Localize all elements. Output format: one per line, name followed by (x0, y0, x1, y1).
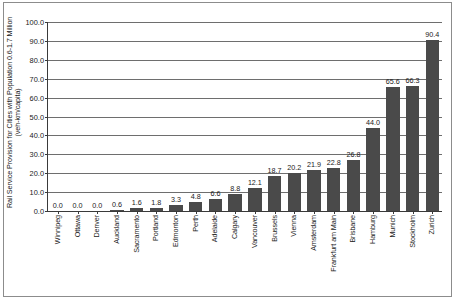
x-axis-label-slot: Denver (86, 215, 106, 303)
bar-slot: 0.0 (48, 22, 68, 211)
x-axis-tick-mark (393, 211, 394, 214)
x-axis-category-label: Brussels (269, 215, 278, 242)
bar-slot: 18.7 (265, 22, 285, 211)
bar-slot: 22.8 (324, 22, 344, 211)
bar[interactable]: 1.8 (150, 208, 163, 211)
bar-value-label: 12.1 (248, 178, 262, 187)
x-axis-tick-mark (156, 211, 157, 214)
x-axis-category-label: Calgary (230, 215, 239, 239)
bar-value-label: 0.0 (73, 201, 83, 210)
x-axis-category-label: Denver (92, 215, 101, 238)
y-axis-tick-label: 30.0 (30, 150, 44, 159)
x-axis-label-slot: Brussels (264, 215, 284, 303)
bar-slot: 66.3 (403, 22, 423, 211)
x-axis-category-label: Portland (151, 215, 160, 241)
y-axis-tick-label: 70.0 (30, 74, 44, 83)
x-axis-tick-mark (176, 211, 177, 214)
bar[interactable]: 18.7 (268, 176, 281, 211)
bar-value-label: 4.8 (191, 192, 201, 201)
bar-slot: 65.6 (383, 22, 403, 211)
bar[interactable]: 8.8 (228, 194, 241, 211)
bar-value-label: 90.4 (425, 30, 439, 39)
bar-slot: 21.9 (304, 22, 324, 211)
bar[interactable]: 4.8 (189, 202, 202, 211)
x-axis-category-label: Amsterdam (308, 215, 317, 251)
x-axis-label-slot: Vancouver (244, 215, 264, 303)
bar[interactable]: 44.0 (366, 128, 379, 211)
x-axis-label-slot: Brisbane (343, 215, 363, 303)
x-axis-category-label: Ottawa (72, 215, 81, 237)
x-axis-label-slot: Stockholm (402, 215, 422, 303)
x-axis-tick-mark (117, 211, 118, 214)
bar[interactable]: 3.3 (169, 205, 182, 211)
x-axis-label-slot: Zurich (421, 215, 441, 303)
bar-value-label: 65.6 (386, 77, 400, 86)
x-axis-category-label: Auckland (111, 215, 120, 244)
x-axis-tick-mark (275, 211, 276, 214)
bar-value-label: 0.6 (112, 200, 122, 209)
y-axis-tick-label: 10.0 (30, 188, 44, 197)
bar[interactable]: 65.6 (386, 87, 399, 211)
chart-figure: Rail Service Provision for Cities with P… (0, 0, 455, 305)
bar[interactable]: 20.2 (288, 173, 301, 211)
bar-slot: 6.6 (206, 22, 226, 211)
x-axis-label-slot: Amsterdam (303, 215, 323, 303)
x-axis-tick-mark (373, 211, 374, 214)
y-axis-title: Rail Service Provision for Cities with P… (0, 0, 30, 225)
x-axis-tick-mark (235, 211, 236, 214)
bar-slot: 20.2 (284, 22, 304, 211)
x-axis-tick-mark (353, 211, 354, 214)
bar-slot: 3.3 (166, 22, 186, 211)
bar-slot: 44.0 (363, 22, 383, 211)
x-axis-tick-mark (78, 211, 79, 214)
x-axis-category-label: Munich (387, 215, 396, 238)
x-axis-label-slot: Portland (146, 215, 166, 303)
x-axis-label-slot: Auckland (106, 215, 126, 303)
x-axis-label-slot: Ottawa (67, 215, 87, 303)
x-axis-label-slot: Adelaide (205, 215, 225, 303)
bar-slot: 0.0 (87, 22, 107, 211)
bar-value-label: 1.6 (132, 198, 142, 207)
x-axis-tick-mark (255, 211, 256, 214)
bar[interactable]: 6.6 (209, 199, 222, 211)
bar-slot: 1.8 (147, 22, 167, 211)
x-axis-category-label: Sacramento (131, 215, 140, 253)
bar-value-label: 0.0 (53, 201, 63, 210)
bar-value-label: 1.8 (151, 198, 161, 207)
bar-value-label: 18.7 (268, 166, 282, 175)
y-axis-tick-label: 20.0 (30, 169, 44, 178)
bar[interactable]: 12.1 (248, 188, 261, 211)
bar-slot: 0.6 (107, 22, 127, 211)
x-axis-category-label: Adelaide (210, 215, 219, 242)
y-axis-tick-label: 90.0 (30, 36, 44, 45)
bar[interactable]: 22.8 (327, 168, 340, 211)
x-axis-label-slot: Winnipeg (47, 215, 67, 303)
x-axis-tick-mark (215, 211, 216, 214)
bar[interactable]: 0.6 (110, 210, 123, 211)
x-axis-category-label: Perth (190, 215, 199, 232)
bar[interactable]: 1.6 (130, 208, 143, 211)
x-axis-label-slot: Calgary (224, 215, 244, 303)
y-axis-tick-label: 40.0 (30, 131, 44, 140)
y-axis-tick-label: 50.0 (30, 112, 44, 121)
y-axis-tick-label: 80.0 (30, 55, 44, 64)
x-axis-tick-mark (196, 211, 197, 214)
plot-area: 100.090.080.070.060.050.040.030.020.010.… (47, 22, 442, 212)
bar-value-label: 26.8 (346, 150, 360, 159)
bar-slot: 26.8 (344, 22, 364, 211)
x-axis-tick-mark (432, 211, 433, 214)
x-axis-tick-mark (137, 211, 138, 214)
bar[interactable]: 90.4 (426, 40, 439, 211)
bar-value-label: 44.0 (366, 118, 380, 127)
bar-slot: 0.0 (68, 22, 88, 211)
bar[interactable]: 66.3 (406, 86, 419, 211)
x-axis-label-slot: Frankfurt am Main (323, 215, 343, 303)
y-axis-tick-label: 60.0 (30, 93, 44, 102)
bar-slot: 8.8 (225, 22, 245, 211)
x-axis-category-label: Vienna (289, 215, 298, 237)
y-axis-tick-label: 100.0 (26, 18, 45, 27)
x-axis-tick-mark (334, 211, 335, 214)
bar[interactable]: 26.8 (347, 160, 360, 211)
bar[interactable]: 21.9 (307, 170, 320, 211)
x-axis-tick-mark (97, 211, 98, 214)
